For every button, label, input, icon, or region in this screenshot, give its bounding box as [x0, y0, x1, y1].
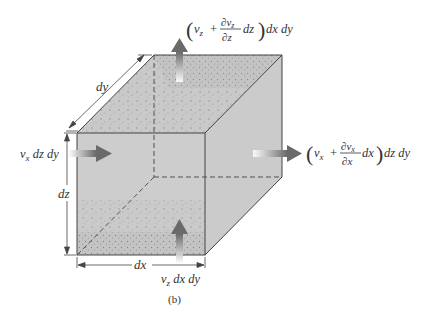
svg-text:dz dy: dz dy — [384, 146, 410, 160]
svg-text:dx dy: dx dy — [266, 22, 293, 36]
svg-text:dz: dz — [243, 22, 254, 36]
inflow-x-label: vx dz dy — [20, 147, 59, 163]
dimension-dz-label: dz — [58, 186, 70, 201]
svg-text:vx dz dy: vx dz dy — [20, 147, 59, 163]
svg-text:): ) — [376, 141, 383, 166]
svg-text:∂x: ∂x — [342, 155, 352, 167]
outflow-z-label: ( vz + ∂vz ∂z dz ) dx dy — [186, 16, 293, 43]
inflow-z-label: vz dx dy — [161, 272, 200, 288]
svg-text:vx: vx — [314, 146, 324, 162]
dimension-dx-label: dx — [134, 257, 147, 272]
svg-text:(: ( — [306, 141, 313, 166]
svg-text:∂vx: ∂vx — [341, 140, 355, 154]
svg-text:(: ( — [186, 17, 193, 42]
svg-text:+: + — [210, 22, 217, 36]
control-volume-diagram: dy dz dx vx dz dy — [0, 0, 422, 317]
figure-caption: (b) — [168, 293, 181, 306]
svg-text:∂z: ∂z — [222, 31, 232, 43]
dimension-dy-label: dy — [96, 79, 109, 94]
svg-text:vz dx dy: vz dx dy — [161, 272, 200, 288]
outflow-x-label: ( vx + ∂vx ∂x dx ) dz dy — [306, 140, 410, 167]
svg-text:dx: dx — [362, 146, 374, 160]
svg-text:vz: vz — [194, 22, 204, 38]
svg-text:∂vz: ∂vz — [221, 16, 235, 30]
svg-text:): ) — [258, 17, 265, 42]
svg-text:+: + — [330, 146, 337, 160]
